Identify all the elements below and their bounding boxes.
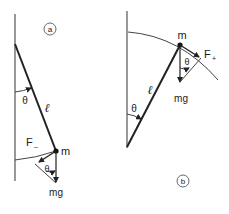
force-label: F xyxy=(204,48,211,60)
triangle-angle-label: θ xyxy=(44,164,49,174)
restoring-force-arrow xyxy=(39,151,56,162)
angle-label: θ xyxy=(131,103,137,114)
weight-label: mg xyxy=(49,187,63,198)
pendulum-diagram: a θ ℓ F – m θ mg m F + θ mg ℓ θ b xyxy=(0,0,229,214)
diagram-b: m F + θ mg ℓ θ b xyxy=(127,11,218,187)
triangle-side xyxy=(180,58,201,82)
triangle-angle-arc xyxy=(180,68,189,69)
pendulum-string xyxy=(15,44,56,151)
force-subscript: + xyxy=(212,55,216,62)
panel-label: b xyxy=(181,177,186,186)
angle-label: θ xyxy=(22,95,28,106)
weight-label: mg xyxy=(174,93,188,104)
angle-arc xyxy=(127,114,141,119)
length-label: ℓ xyxy=(148,83,153,97)
angle-arc xyxy=(15,88,31,92)
force-label: F xyxy=(26,136,33,148)
restoring-force-arrow xyxy=(180,45,199,57)
pendulum-string xyxy=(127,45,180,147)
diagram-a: a θ ℓ F – m θ mg xyxy=(15,14,70,198)
panel-label: a xyxy=(48,25,53,34)
mass-label: m xyxy=(61,145,70,157)
triangle-angle-label: θ xyxy=(184,57,189,67)
force-subscript: – xyxy=(34,143,38,150)
length-label: ℓ xyxy=(45,101,50,115)
mass-label: m xyxy=(177,29,186,41)
